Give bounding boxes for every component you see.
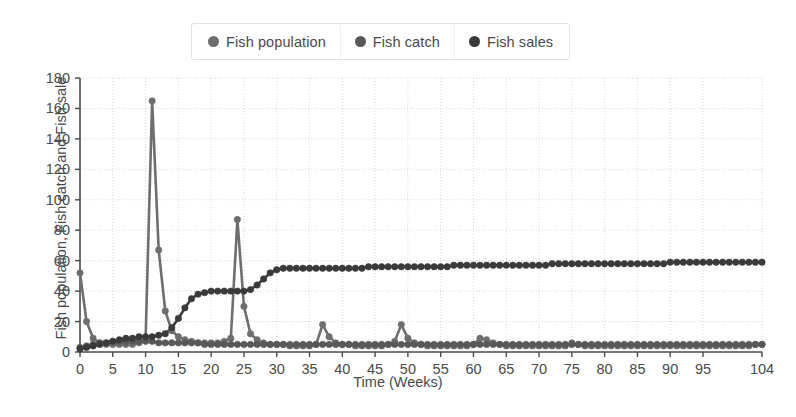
svg-text:100: 100 xyxy=(46,192,70,208)
chart-canvas: 020406080100120140160180 051015202530354… xyxy=(0,0,796,417)
svg-text:0: 0 xyxy=(62,344,70,360)
svg-text:180: 180 xyxy=(46,70,70,86)
svg-text:90: 90 xyxy=(662,361,678,377)
svg-text:80: 80 xyxy=(54,222,70,238)
svg-text:10: 10 xyxy=(138,361,154,377)
svg-text:95: 95 xyxy=(695,361,711,377)
svg-text:40: 40 xyxy=(54,283,70,299)
svg-text:20: 20 xyxy=(54,314,70,330)
svg-text:85: 85 xyxy=(629,361,645,377)
svg-text:20: 20 xyxy=(203,361,219,377)
svg-text:140: 140 xyxy=(46,131,70,147)
svg-text:80: 80 xyxy=(597,361,613,377)
svg-text:50: 50 xyxy=(400,361,416,377)
svg-text:55: 55 xyxy=(433,361,449,377)
svg-text:65: 65 xyxy=(498,361,514,377)
svg-text:5: 5 xyxy=(109,361,117,377)
svg-text:35: 35 xyxy=(301,361,317,377)
svg-text:60: 60 xyxy=(465,361,481,377)
svg-text:104: 104 xyxy=(750,361,774,377)
svg-text:75: 75 xyxy=(564,361,580,377)
svg-text:30: 30 xyxy=(269,361,285,377)
x-axis-ticks: 0510152025303540455055606570758085909510… xyxy=(76,352,774,377)
svg-text:0: 0 xyxy=(76,361,84,377)
svg-text:120: 120 xyxy=(46,161,70,177)
chart-page: Fish population Fish catch Fish sales Fi… xyxy=(0,0,796,417)
svg-text:15: 15 xyxy=(170,361,186,377)
svg-text:25: 25 xyxy=(236,361,252,377)
svg-text:160: 160 xyxy=(46,100,70,116)
svg-text:70: 70 xyxy=(531,361,547,377)
data-series xyxy=(77,98,765,353)
plot-area: 020406080100120140160180 051015202530354… xyxy=(0,0,796,417)
y-axis-ticks: 020406080100120140160180 xyxy=(46,70,80,360)
svg-text:40: 40 xyxy=(334,361,350,377)
svg-text:60: 60 xyxy=(54,253,70,269)
svg-text:45: 45 xyxy=(367,361,383,377)
